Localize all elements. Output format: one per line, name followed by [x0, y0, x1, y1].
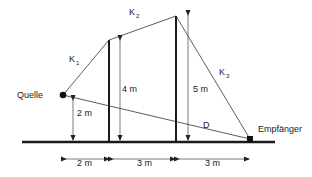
- distance-label-2: 3 m: [137, 158, 152, 168]
- source-label: Quelle: [17, 90, 43, 100]
- k3-label: K: [219, 67, 225, 77]
- receiver-label: Empfänger: [258, 124, 302, 134]
- k2-label: K: [129, 7, 135, 17]
- distance-label-3: 3 m: [205, 158, 220, 168]
- direct-path-label: D: [203, 120, 210, 130]
- barrier2-height-label: 5 m: [193, 84, 208, 94]
- k2-subscript: 2: [136, 13, 140, 19]
- source-dot: [60, 92, 67, 99]
- k1-subscript: 1: [76, 60, 80, 66]
- barrier1-height-label: 4 m: [122, 84, 137, 94]
- path-k1: [63, 40, 109, 95]
- receiver-marker: [247, 136, 253, 142]
- path-k2: [109, 16, 176, 40]
- k3-subscript: 3: [226, 73, 230, 79]
- path-k3: [176, 16, 250, 139]
- sound-barrier-diagram: Quelle Empfänger K 1 K 2 K 3 D 2 m 4 m 5…: [0, 0, 312, 177]
- k1-label: K: [69, 54, 75, 64]
- source-height-label: 2 m: [77, 108, 92, 118]
- distance-label-1: 2 m: [77, 158, 92, 168]
